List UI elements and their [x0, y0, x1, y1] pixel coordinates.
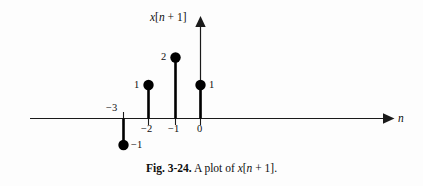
- figure-number: Fig. 3-24.: [146, 162, 192, 174]
- caption-text: A plot of: [194, 162, 235, 174]
- y-axis-arrowhead: [195, 16, 205, 27]
- value-label-n-minus2: 1: [134, 80, 139, 91]
- tick-label-zero: 0: [197, 124, 202, 135]
- figure-container: x[n + 1] n −3 −2 −1 0 −1 1 2 1 Fig. 3-24…: [0, 0, 423, 186]
- caption-expression: x[n + 1].: [238, 162, 277, 174]
- stem-dot-n-minus3: [118, 140, 128, 150]
- value-label-n-minus1: 2: [161, 52, 166, 63]
- stem-dot-n-zero: [195, 80, 205, 90]
- tick-label-minus2: −2: [141, 124, 152, 135]
- stem-plot-canvas: [0, 0, 423, 186]
- tick-label-minus1: −1: [168, 124, 179, 135]
- y-axis-label-bracket-close: ]: [183, 11, 187, 23]
- value-label-n-zero: 1: [209, 80, 214, 91]
- x-axis-arrowhead: [383, 113, 395, 123]
- x-axis-label: n: [398, 113, 404, 125]
- tick-label-minus3: −3: [106, 103, 117, 114]
- stem-dot-n-minus2: [143, 80, 153, 90]
- y-axis-label: x[n + 1]: [150, 12, 187, 24]
- caption-expr-plus-one: + 1: [252, 162, 270, 174]
- y-axis-label-plus-one: + 1: [165, 11, 183, 23]
- stem-dot-n-minus1: [170, 52, 180, 62]
- figure-caption: Fig. 3-24. A plot of x[n + 1].: [0, 162, 423, 176]
- value-label-n-minus3: −1: [131, 140, 142, 151]
- caption-expr-bracket-close: ].: [270, 162, 277, 174]
